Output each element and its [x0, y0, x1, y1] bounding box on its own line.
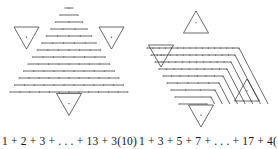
- row-dot: [79, 63, 80, 64]
- row-dot: [59, 14, 60, 15]
- row-dot: [232, 47, 233, 48]
- row-dot: [157, 54, 158, 55]
- row-dot: [206, 103, 207, 104]
- row-dot: [63, 84, 64, 85]
- row-dot: [23, 70, 24, 71]
- corner-dot: [26, 37, 27, 38]
- row-dot: [52, 42, 53, 43]
- row-dot: [57, 35, 58, 36]
- row-dot: [55, 21, 56, 22]
- row-dot: [37, 49, 38, 50]
- row-dot: [175, 61, 176, 62]
- row-dot: [195, 47, 196, 48]
- row-dot: [171, 75, 172, 76]
- row-dot: [85, 42, 86, 43]
- row-dot: [44, 84, 45, 85]
- row-dot: [99, 63, 100, 64]
- row-dot: [77, 14, 78, 15]
- row-dot: [48, 77, 49, 78]
- row-dot: [174, 96, 175, 97]
- row-dot: [78, 77, 79, 78]
- row-dot: [189, 68, 190, 69]
- row-dot: [39, 91, 40, 92]
- row-dot: [161, 61, 162, 62]
- row-dot: [94, 56, 95, 57]
- row-dot: [34, 84, 35, 85]
- corner-dot: [160, 55, 161, 56]
- row-dot: [80, 35, 81, 36]
- row-dot: [214, 75, 215, 76]
- row-dot: [73, 70, 74, 71]
- row-dot: [146, 47, 147, 48]
- row-dot: [100, 49, 101, 50]
- panel-right: 1 + 3 + 5 + 7 + . . . + 17 + 4(10): [139, 0, 278, 149]
- corner-triangle-bottom: [189, 105, 214, 127]
- row-dot: [68, 91, 69, 92]
- row-dot: [153, 47, 154, 48]
- row-dot: [159, 47, 160, 48]
- row-dot: [189, 47, 190, 48]
- row-dot: [63, 70, 64, 71]
- row-dot: [62, 28, 63, 29]
- row-dot: [108, 77, 109, 78]
- row-dot: [217, 61, 218, 62]
- row-dot: [58, 49, 59, 50]
- row-dot: [58, 63, 59, 64]
- row-dot: [177, 82, 178, 83]
- row-dot: [166, 68, 167, 69]
- corner-dot: [68, 103, 69, 104]
- row-dot: [89, 63, 90, 64]
- row-dot: [197, 75, 198, 76]
- row-dot: [203, 61, 204, 62]
- row-dot: [83, 84, 84, 85]
- row-dot: [88, 77, 89, 78]
- row-dot: [96, 42, 97, 43]
- row-dot: [98, 91, 99, 92]
- row-dot: [29, 91, 30, 92]
- row-dot: [113, 84, 114, 85]
- row-dot: [208, 82, 209, 83]
- row-dot: [94, 70, 95, 71]
- row-dot: [38, 63, 39, 64]
- row-dot: [18, 77, 19, 78]
- row-dot: [54, 84, 55, 85]
- row-dot: [170, 89, 171, 90]
- row-dot: [196, 54, 197, 55]
- row-dot: [127, 91, 128, 92]
- row-dot: [73, 84, 74, 85]
- row-dot: [68, 21, 69, 22]
- row-dot: [183, 47, 184, 48]
- row-dot: [68, 35, 69, 36]
- row-dot: [63, 56, 64, 57]
- row-dot: [185, 89, 186, 90]
- row-dot: [32, 56, 33, 57]
- row-dot: [223, 61, 224, 62]
- row-dot: [98, 77, 99, 78]
- row-dot: [215, 54, 216, 55]
- row-dot: [90, 49, 91, 50]
- row-dot: [14, 84, 15, 85]
- row-dot: [68, 49, 69, 50]
- row-dot: [163, 54, 164, 55]
- corner-triangle-left: [14, 27, 39, 49]
- row-dot: [46, 35, 47, 36]
- row-dot: [205, 75, 206, 76]
- row-dot: [103, 84, 104, 85]
- row-dot: [41, 42, 42, 43]
- row-dot: [220, 47, 221, 48]
- corner-triangle-right: [99, 27, 124, 49]
- row-dot: [204, 68, 205, 69]
- row-dot: [28, 77, 29, 78]
- row-dot: [63, 42, 64, 43]
- row-dot: [202, 54, 203, 55]
- row-dot: [42, 56, 43, 57]
- panel-left: 1 + 2 + 3 + . . . + 13 + 3(10): [0, 0, 139, 149]
- left-caption: 1 + 2 + 3 + . . . + 13 + 3(10): [0, 135, 139, 147]
- row-dot: [196, 61, 197, 62]
- row-dot: [59, 91, 60, 92]
- row-dot: [78, 91, 79, 92]
- row-dot: [105, 56, 106, 57]
- row-dot: [177, 47, 178, 48]
- row-dot: [198, 82, 199, 83]
- row-dot: [219, 68, 220, 69]
